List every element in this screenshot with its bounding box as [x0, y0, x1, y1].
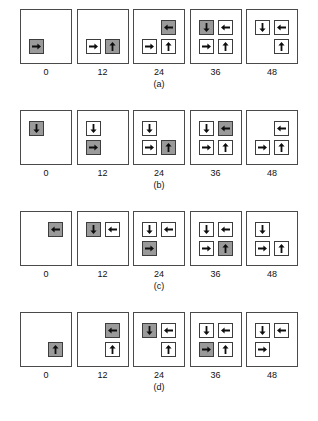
grid-cell: [274, 121, 289, 136]
cell-grid: [85, 120, 121, 156]
cell-grid: [198, 221, 234, 257]
grid-cell: [218, 222, 233, 237]
arrow-right-icon: [144, 41, 155, 52]
grid-cell: [105, 342, 120, 357]
state-panel: [20, 110, 72, 165]
arrow-down-icon: [144, 123, 155, 134]
state-panel: [77, 211, 129, 266]
grid-cell: [255, 323, 270, 338]
grid-cell: [199, 20, 214, 35]
arrow-down-icon: [88, 224, 99, 235]
grid-cell: [142, 241, 157, 256]
arrow-down-icon: [257, 325, 268, 336]
panel-row: 012243648(a): [0, 9, 318, 110]
cell-grid: [254, 19, 290, 55]
state-panel: [190, 211, 242, 266]
arrow-right-icon: [31, 41, 42, 52]
panel-row: 012243648(c): [0, 211, 318, 312]
state-panel: [77, 312, 129, 367]
cell-grid: [254, 221, 290, 257]
arrow-left-icon: [107, 325, 118, 336]
grid-cell: [142, 222, 157, 237]
grid-cell: [218, 20, 233, 35]
arrow-up-icon: [163, 344, 174, 355]
grid-cell: [161, 323, 176, 338]
cell-grid: [198, 120, 234, 156]
grid-cell: [199, 323, 214, 338]
grid-cell: [86, 121, 101, 136]
time-step-label: 0: [20, 67, 72, 78]
grid-cell: [48, 222, 63, 237]
cell-grid: [85, 221, 121, 257]
state-panel: [20, 211, 72, 266]
grid-cell: [218, 241, 233, 256]
arrow-down-icon: [201, 224, 212, 235]
subfigure-caption: (d): [0, 382, 318, 393]
grid-cell: [199, 140, 214, 155]
cell-grid: [141, 120, 177, 156]
cell-grid: [28, 19, 64, 55]
grid-cell: [199, 39, 214, 54]
state-panel: [246, 211, 298, 266]
grid-cell: [255, 342, 270, 357]
arrow-down-icon: [144, 224, 155, 235]
arrow-up-icon: [276, 243, 287, 254]
time-step-label: 12: [77, 67, 129, 78]
arrow-right-icon: [88, 142, 99, 153]
time-step-label: 48: [246, 269, 298, 280]
state-panel: [190, 110, 242, 165]
arrow-up-icon: [220, 142, 231, 153]
time-label-strip: 012243648: [20, 269, 298, 280]
arrow-right-icon: [201, 142, 212, 153]
grid-cell: [255, 140, 270, 155]
arrow-left-icon: [220, 22, 231, 33]
cell-grid: [141, 19, 177, 55]
panel-strip: [20, 110, 298, 165]
arrow-down-icon: [257, 22, 268, 33]
arrow-down-icon: [144, 325, 155, 336]
arrow-left-icon: [163, 22, 174, 33]
state-panel: [77, 9, 129, 64]
grid-cell: [142, 140, 157, 155]
state-panel: [133, 110, 185, 165]
arrow-left-icon: [50, 224, 61, 235]
grid-cell: [218, 342, 233, 357]
time-step-label: 0: [20, 168, 72, 179]
arrow-left-icon: [220, 224, 231, 235]
arrow-up-icon: [107, 41, 118, 52]
cell-grid: [28, 120, 64, 156]
grid-cell: [48, 342, 63, 357]
state-panel: [20, 9, 72, 64]
grid-cell: [142, 39, 157, 54]
state-panel: [190, 312, 242, 367]
cell-grid: [28, 221, 64, 257]
subfigure-caption: (c): [0, 281, 318, 292]
grid-cell: [29, 39, 44, 54]
time-step-label: 24: [133, 370, 185, 381]
cell-grid: [198, 322, 234, 358]
cell-grid: [28, 322, 64, 358]
grid-cell: [105, 222, 120, 237]
figure-panel-sequence: 012243648(a)012243648(b)012243648(c)0122…: [0, 0, 318, 421]
arrow-up-icon: [50, 344, 61, 355]
grid-cell: [199, 121, 214, 136]
arrow-up-icon: [276, 142, 287, 153]
arrow-right-icon: [144, 243, 155, 254]
grid-cell: [161, 222, 176, 237]
arrow-up-icon: [163, 142, 174, 153]
arrow-up-icon: [220, 243, 231, 254]
cell-grid: [198, 19, 234, 55]
grid-cell: [86, 39, 101, 54]
cell-grid: [85, 322, 121, 358]
arrow-left-icon: [107, 224, 118, 235]
grid-cell: [218, 140, 233, 155]
arrow-up-icon: [107, 344, 118, 355]
arrow-right-icon: [88, 41, 99, 52]
grid-cell: [274, 323, 289, 338]
time-step-label: 12: [77, 168, 129, 179]
arrow-right-icon: [144, 142, 155, 153]
time-step-label: 36: [190, 168, 242, 179]
arrow-up-icon: [276, 41, 287, 52]
arrow-up-icon: [220, 344, 231, 355]
grid-cell: [161, 39, 176, 54]
